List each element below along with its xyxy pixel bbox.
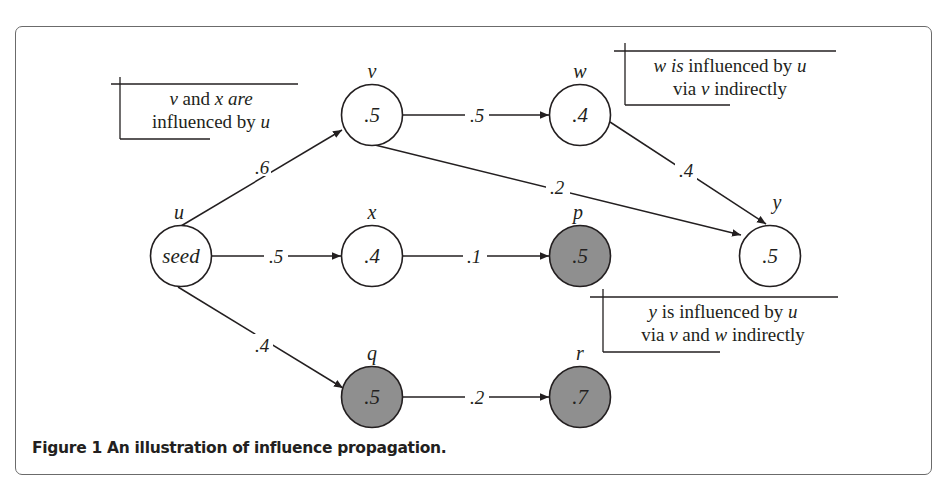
node-u-value: seed <box>162 244 200 268</box>
annotation-line: via v indirectly <box>630 77 830 100</box>
node-r-value: .7 <box>572 385 589 409</box>
node-q-value: .5 <box>364 385 380 409</box>
annotation-line: via v and w indirectly <box>608 323 838 346</box>
edge-u-v <box>181 130 342 226</box>
edge-weight-x-p: .1 <box>467 246 481 267</box>
figure-caption-text: An illustration of influence propagation… <box>107 439 446 457</box>
annotation-y-influenced: y is influenced by u via v and w indirec… <box>608 300 838 346</box>
node-p-name: p <box>571 201 583 224</box>
node-y-name: y <box>771 191 782 214</box>
node-v-name: v <box>368 60 377 82</box>
edge-weight-w-y: .4 <box>679 160 694 181</box>
figure-caption-label: Figure 1 <box>32 439 102 457</box>
node-r-name: r <box>576 342 584 364</box>
node-p-value: .5 <box>572 244 588 268</box>
node-y-value: .5 <box>762 244 778 268</box>
edge-weight-q-r: .2 <box>470 387 485 408</box>
edge-weight-v-w: .5 <box>470 105 484 126</box>
figure-caption: Figure 1 An illustration of influence pr… <box>32 439 446 457</box>
node-v-value: .5 <box>364 103 380 127</box>
annotation-line: v and x are <box>126 87 296 110</box>
edge-weight-v-y: .2 <box>550 177 565 198</box>
node-w-value: .4 <box>572 103 588 127</box>
node-x-name: x <box>367 201 377 223</box>
edge-weight-u-v: .6 <box>255 157 270 178</box>
edge-weight-u-q: .4 <box>255 335 270 356</box>
annotation-w-influenced: w is influenced by u via v indirectly <box>630 54 830 100</box>
annotation-line: y is influenced by u <box>608 300 838 323</box>
node-q-name: q <box>367 342 377 365</box>
edge-weight-u-x: .5 <box>269 246 283 267</box>
annotation-v-x-influenced: v and x are influenced by u <box>126 87 296 133</box>
annotation-line: influenced by u <box>126 110 296 133</box>
node-w-name: w <box>573 60 587 82</box>
node-x-value: .4 <box>364 244 380 268</box>
annotation-line: w is influenced by u <box>630 54 830 77</box>
node-u-name: u <box>174 201 184 223</box>
